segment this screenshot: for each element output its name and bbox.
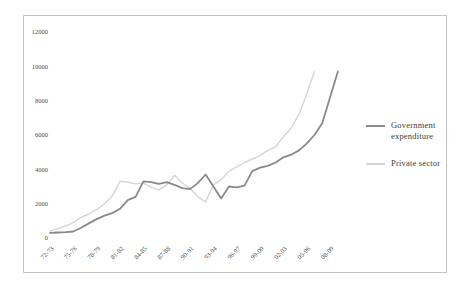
private-sector-line — [50, 72, 315, 232]
y-axis-tick-label: 6000 — [35, 131, 48, 138]
x-axis-tick-label: 96-97 — [226, 244, 242, 260]
x-axis-tick-label: 90-91 — [179, 245, 195, 261]
x-axis-tick-label: 84-85 — [132, 245, 148, 261]
legend: Government expenditure Private sector — [366, 120, 446, 169]
chart-frame: 02000400060008000100001200072-7375-7678-… — [23, 15, 447, 273]
x-axis-tick-label: 02-03 — [272, 245, 288, 261]
private-sector-line-swatch — [366, 163, 385, 165]
legend-item-private-sector: Private sector — [366, 158, 446, 169]
legend-label-government-expenditure: Government expenditure — [391, 120, 446, 142]
x-axis-tick-label: 08-09 — [319, 245, 335, 261]
page: { "chart_data": { "type": "line", "title… — [0, 0, 467, 286]
x-axis-tick-label: 81-82 — [109, 245, 125, 261]
x-axis-tick-label: 93-94 — [202, 244, 218, 260]
x-axis-tick-label: 75-76 — [62, 244, 78, 260]
legend-item-government-expenditure: Government expenditure — [366, 120, 446, 142]
legend-label-private-sector: Private sector — [391, 158, 440, 169]
y-axis-tick-label: 2000 — [35, 200, 48, 207]
y-axis-tick-label: 0 — [45, 234, 48, 241]
y-axis-tick-label: 12000 — [32, 28, 48, 35]
x-axis-tick-label: 99-00 — [249, 245, 265, 261]
x-axis-tick-label: 78-79 — [86, 245, 102, 261]
y-axis-tick-label: 4000 — [35, 166, 48, 173]
government-expenditure-line — [50, 72, 338, 233]
y-axis-tick-label: 8000 — [35, 97, 48, 104]
x-axis-tick-label: 87-88 — [156, 245, 172, 261]
x-axis-tick-label: 05-06 — [296, 244, 312, 260]
x-axis-tick-label: 72-73 — [39, 245, 55, 261]
government-expenditure-line-swatch — [366, 125, 385, 127]
y-axis-tick-label: 10000 — [32, 63, 48, 70]
